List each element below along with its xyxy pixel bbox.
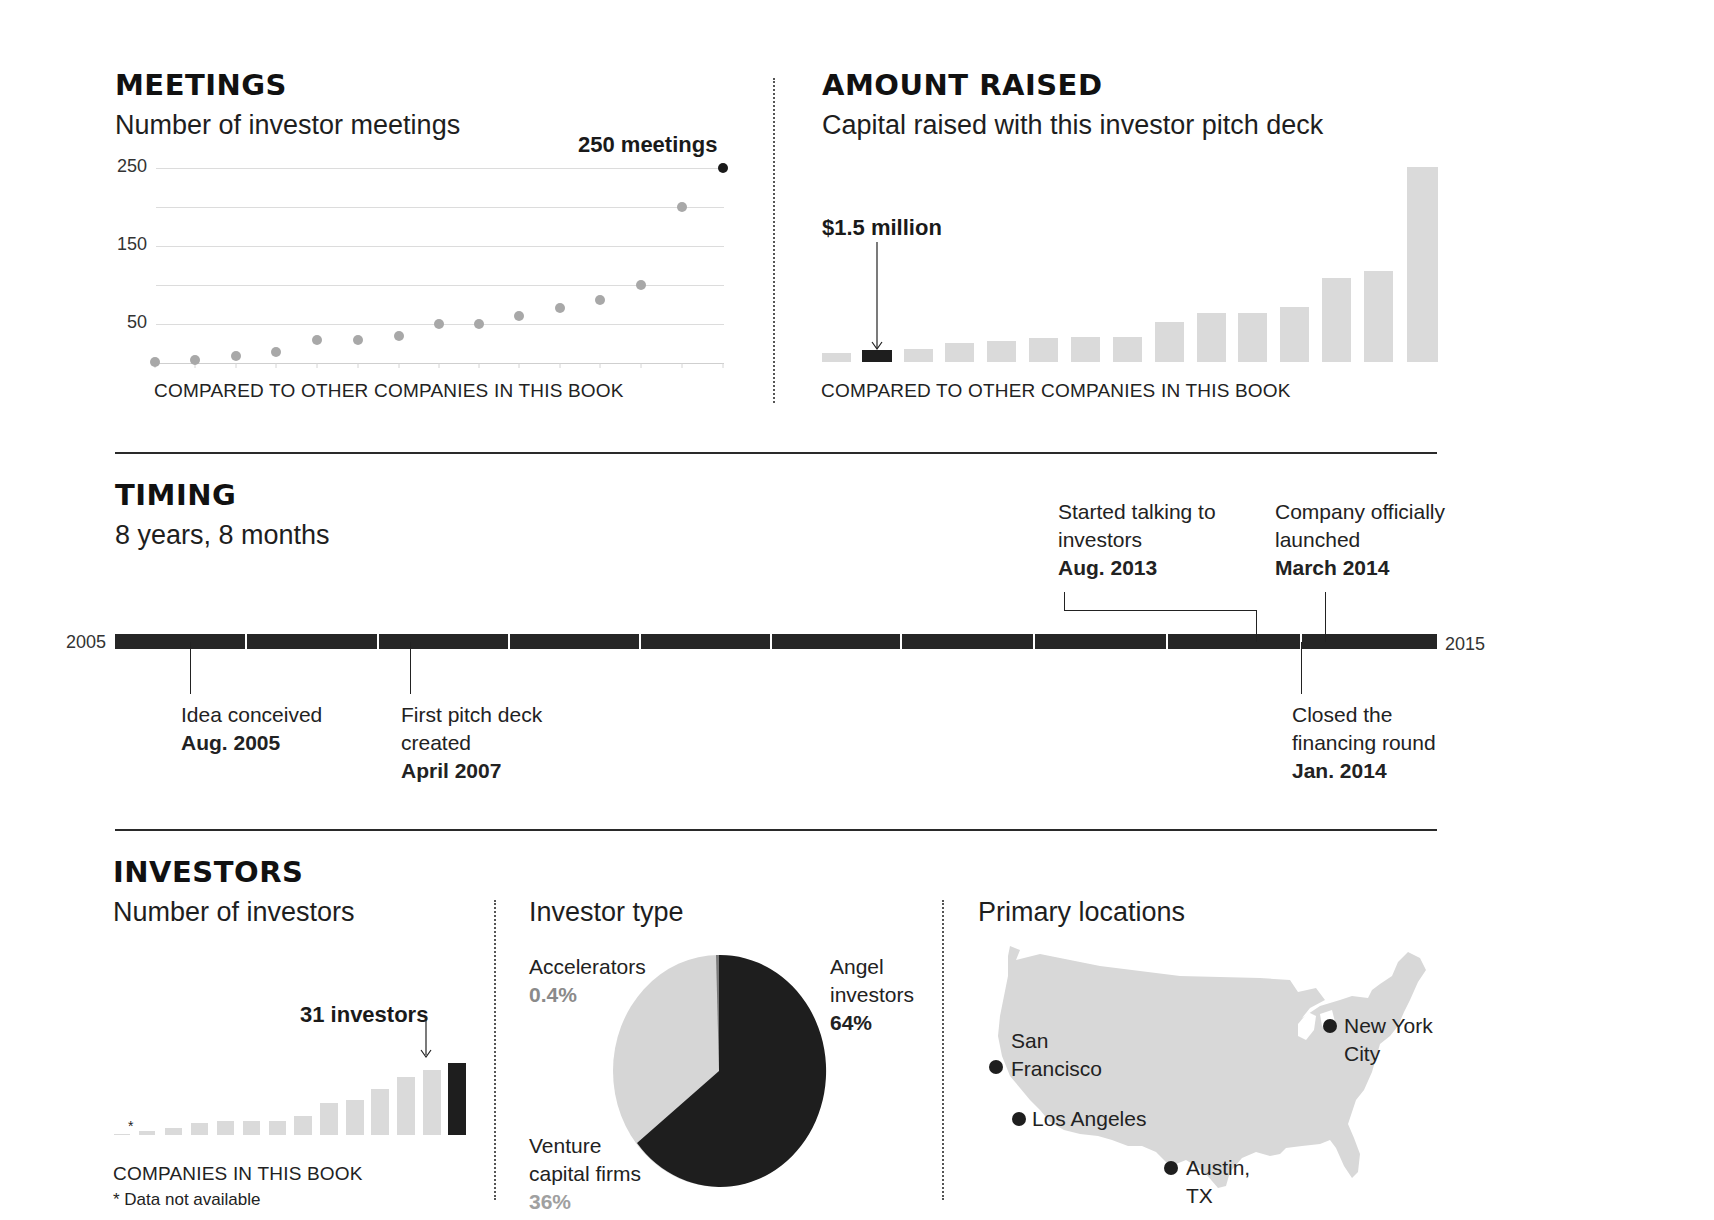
event-started-talking: Started talking to investors Aug. 2013 (1058, 498, 1216, 582)
marker-new-york (1323, 1019, 1337, 1033)
investors-title: INVESTORS (113, 855, 303, 889)
column-separator (773, 78, 775, 403)
timing-title: TIMING (115, 478, 236, 512)
leader-closed-round (1301, 642, 1302, 694)
investors-count-footer: COMPANIES IN THIS BOOK (113, 1163, 363, 1185)
column-separator (942, 900, 944, 1200)
event-closed-round: Closed the financing round Jan. 2014 (1292, 701, 1436, 785)
timeline-bar (115, 634, 1437, 649)
leader-talking-b (1064, 610, 1257, 611)
amount-footer: COMPARED TO OTHER COMPANIES IN THIS BOOK (821, 380, 1291, 402)
leader-launched (1325, 592, 1326, 642)
event-idea-conceived: Idea conceived Aug. 2005 (181, 701, 322, 757)
investors-bar-chart (110, 940, 470, 1155)
marker-austin (1164, 1161, 1178, 1175)
leader-talking-a (1064, 592, 1065, 611)
section-divider (115, 452, 1437, 454)
investors-footnote: * Data not available (113, 1190, 260, 1210)
label-austin: Austin, TX (1186, 1154, 1250, 1210)
amount-subtitle: Capital raised with this investor pitch … (822, 110, 1323, 141)
pie-label-venture: Venture capital firms 36% (529, 1132, 641, 1216)
section-divider (115, 829, 1437, 831)
marker-san-francisco (989, 1060, 1003, 1074)
timing-subtitle: 8 years, 8 months (115, 520, 330, 551)
asterisk-marker: * (128, 1118, 133, 1134)
meetings-footer: COMPARED TO OTHER COMPANIES IN THIS BOOK (154, 380, 624, 402)
timeline-start-year: 2005 (66, 632, 106, 653)
pie-label-angel: Angel investors 64% (830, 953, 914, 1037)
highlight-dot (718, 163, 728, 173)
amount-bar-chart (800, 150, 1460, 375)
label-new-york: New York City (1344, 1012, 1433, 1068)
leader-idea (190, 642, 191, 694)
meetings-dots (0, 0, 760, 380)
investors-count-subtitle: Number of investors (113, 897, 355, 928)
marker-los-angeles (1012, 1112, 1026, 1126)
event-launched: Company officially launched March 2014 (1275, 498, 1445, 582)
amount-title: AMOUNT RAISED (822, 68, 1103, 102)
leader-first-deck (410, 642, 411, 694)
leader-talking-c (1256, 610, 1257, 642)
event-first-pitch-deck: First pitch deck created April 2007 (401, 701, 542, 785)
pie-label-accelerators: Accelerators 0.4% (529, 953, 646, 1009)
timeline-end-year: 2015 (1445, 634, 1485, 655)
label-los-angeles: Los Angeles (1032, 1105, 1146, 1133)
column-separator (494, 900, 496, 1200)
locations-subtitle: Primary locations (978, 897, 1185, 928)
investor-type-subtitle: Investor type (529, 897, 684, 928)
label-san-francisco: San Francisco (1011, 1027, 1102, 1083)
